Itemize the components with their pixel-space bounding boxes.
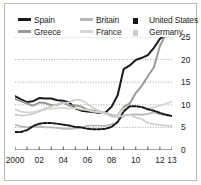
x-axis-label: 13 [160, 156, 184, 165]
series-line-greece [15, 37, 172, 116]
chart-x-axis [15, 147, 172, 151]
legend-item-united-states: United States [133, 10, 198, 22]
legend-swatch-britain [80, 18, 93, 21]
legend-swatch-greece [18, 30, 31, 33]
x-axis-label: 08 [100, 156, 124, 165]
y-axis-label: 5 [181, 123, 186, 131]
legend-item-france: France [80, 22, 121, 34]
legend-swatch-spain [18, 18, 31, 21]
legend-label-greece: Greece [34, 26, 61, 38]
legend-item-spain: Spain [18, 10, 55, 22]
legend-row: Greece France Germany [14, 22, 199, 34]
legend-row: Spain Britain United States [14, 10, 199, 22]
x-axis-label: 06 [75, 156, 99, 165]
series-line-britain [15, 112, 172, 128]
legend-item-greece: Greece [18, 22, 61, 34]
y-axis-label: 25 [181, 33, 190, 41]
chart-plot-area [15, 37, 172, 150]
legend-swatch-france [80, 30, 93, 33]
chart-figure: Spain Britain United States Greece Franc… [0, 0, 201, 185]
y-axis-label: 20 [181, 56, 190, 64]
x-axis-label: 2000 [3, 156, 27, 165]
x-axis-label: 04 [51, 156, 75, 165]
legend-label-france: France [96, 26, 121, 38]
x-axis-label: 02 [27, 156, 51, 165]
legend-item-germany: Germany [133, 22, 183, 34]
x-axis-label: 10 [124, 156, 148, 165]
y-axis-label: 0 [181, 146, 186, 154]
chart-legend: Spain Britain United States Greece Franc… [14, 10, 199, 36]
y-axis-label: 15 [181, 78, 190, 86]
legend-label-germany: Germany [149, 26, 183, 38]
chart-series-lines [15, 37, 172, 132]
legend-item-britain: Britain [80, 10, 119, 22]
y-axis-label: 10 [181, 101, 190, 109]
chart-frame: Spain Britain United States Greece Franc… [4, 3, 197, 181]
legend-swatch-germany [133, 30, 146, 33]
legend-swatch-united-states [133, 18, 146, 21]
chart-svg [15, 37, 172, 150]
